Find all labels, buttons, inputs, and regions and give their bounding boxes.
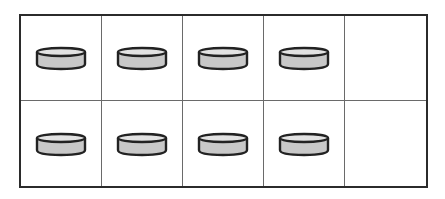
counter-icon xyxy=(34,45,88,71)
frame-cell-r1-c2 xyxy=(102,16,183,101)
counter-icon xyxy=(196,131,250,157)
counter-icon xyxy=(277,45,331,71)
frame-cell-r1-c5 xyxy=(345,16,426,101)
frame-cell-r1-c3 xyxy=(183,16,264,101)
frame-cell-r2-c2 xyxy=(102,101,183,186)
frame-cell-r2-c4 xyxy=(264,101,345,186)
frame-cell-r2-c3 xyxy=(183,101,264,186)
frame-cell-r1-c1 xyxy=(21,16,102,101)
counter-icon xyxy=(277,131,331,157)
frame-cell-r1-c4 xyxy=(264,16,345,101)
counter-icon xyxy=(115,45,169,71)
ten-frame xyxy=(19,14,428,188)
counter-icon xyxy=(34,131,88,157)
counter-icon xyxy=(196,45,250,71)
counter-icon xyxy=(115,131,169,157)
frame-cell-r2-c1 xyxy=(21,101,102,186)
frame-cell-r2-c5 xyxy=(345,101,426,186)
